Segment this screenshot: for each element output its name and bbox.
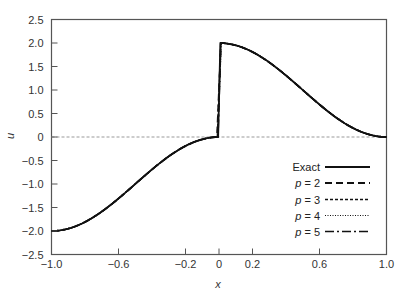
x-axis-label: x (214, 278, 221, 290)
y-tick-label: −2.0 (22, 225, 44, 237)
x-tick-label: 1.0 (379, 258, 394, 270)
y-tick-label: −0.5 (22, 155, 44, 167)
y-tick-label: −2.5 (22, 249, 44, 261)
x-tick-label: −1.0 (41, 258, 63, 270)
x-tick-label: −0.2 (175, 258, 197, 270)
y-tick-label: 2.0 (28, 37, 43, 49)
legend-item: Exact (292, 161, 370, 173)
x-tick-label: 0.2 (245, 258, 260, 270)
legend-label: Exact (292, 161, 320, 173)
line-chart: −1.0−0.6−0.200.20.61.0 2.52.01.51.00.50−… (0, 0, 404, 293)
y-tick-label: 0.5 (28, 108, 43, 120)
legend-item: p = 2 (294, 177, 370, 189)
legend-item: p = 3 (294, 194, 370, 206)
y-tick-label: 0 (37, 131, 43, 143)
legend-label: p = 3 (294, 194, 320, 206)
legend-item: p = 5 (294, 226, 370, 238)
y-tick-label: 1.0 (28, 84, 43, 96)
x-tick-label: 0 (216, 258, 222, 270)
y-axis: 2.52.01.51.00.50−0.5−1.0−1.5−2.0−2.5 (22, 14, 58, 261)
legend-item: p = 4 (294, 210, 370, 222)
y-tick-label: 1.5 (28, 61, 43, 73)
y-tick-label: −1.0 (22, 178, 44, 190)
x-axis: −1.0−0.6−0.200.20.61.0 (41, 249, 395, 270)
legend-label: p = 2 (294, 177, 320, 189)
x-tick-label: −0.6 (108, 258, 130, 270)
legend-label: p = 5 (294, 226, 320, 238)
x-tick-label: 0.6 (312, 258, 327, 270)
y-tick-label: −1.5 (22, 202, 44, 214)
y-axis-label: u (4, 133, 16, 139)
legend: Exactp = 2p = 3p = 4p = 5 (292, 161, 370, 238)
y-tick-label: 2.5 (28, 14, 43, 26)
legend-label: p = 4 (294, 210, 320, 222)
